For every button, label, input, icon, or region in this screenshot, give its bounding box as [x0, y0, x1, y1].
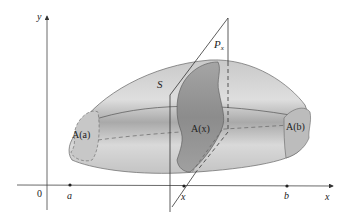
plane-label-subscript: x — [220, 44, 225, 52]
area-label-b: A(b) — [286, 121, 305, 133]
diagram-svg: y 0 x a x b S Px A(a) A(x) A(b) — [0, 0, 347, 219]
y-axis-label: y — [36, 11, 42, 22]
end-cap-b — [284, 108, 311, 158]
plane-label: Px — [213, 38, 225, 52]
tick-b — [285, 184, 288, 187]
tick-label-x: x — [180, 191, 186, 202]
origin-label: 0 — [37, 188, 42, 199]
tick-x — [182, 184, 185, 187]
x-axis-label: x — [324, 191, 330, 202]
area-label-a: A(a) — [72, 129, 90, 141]
tick-label-a: a — [67, 190, 72, 201]
tick-a — [68, 183, 71, 186]
cross-section-diagram: y 0 x a x b S Px A(a) A(x) A(b) — [0, 0, 347, 219]
tick-label-b: b — [284, 190, 289, 201]
area-label-x: A(x) — [191, 123, 210, 135]
solid-label: S — [157, 78, 163, 90]
